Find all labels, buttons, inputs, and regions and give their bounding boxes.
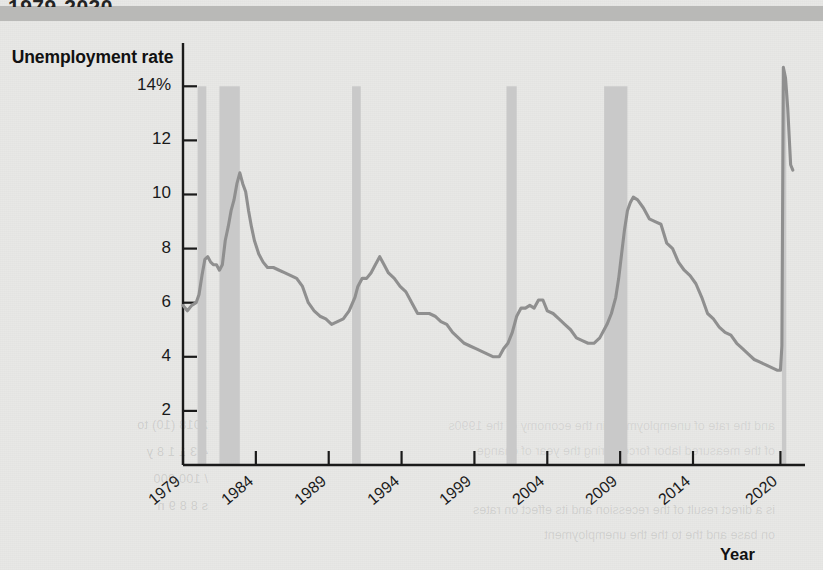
unemployment-rate-line <box>183 67 793 370</box>
y-tick-label: 10 <box>109 183 171 203</box>
y-tick-label: 4 <box>109 346 171 366</box>
chart-figure: Unemployment rate Year 14%12108642 19791… <box>0 21 823 570</box>
page-title: 1979-2020 <box>8 0 113 7</box>
recession-band <box>506 86 516 465</box>
y-tick-label: 14% <box>109 75 171 95</box>
y-tick-label: 12 <box>109 129 171 149</box>
recession-band <box>604 86 627 465</box>
axes-group <box>183 43 805 465</box>
header-band: 1979-2020 <box>0 6 823 21</box>
recession-bands-group <box>198 86 787 465</box>
recession-band <box>219 86 239 465</box>
y-tick-label: 8 <box>109 238 171 258</box>
y-tick-label: 6 <box>109 292 171 312</box>
recession-band <box>352 86 361 465</box>
y-tick-label: 2 <box>109 400 171 420</box>
